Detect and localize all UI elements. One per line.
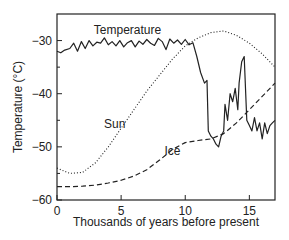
- x-tick-label: 0: [54, 204, 61, 218]
- y-tick-label: −30: [32, 34, 53, 48]
- y-tick-label: −60: [32, 193, 53, 207]
- x-axis-label: Thousands of years before present: [73, 215, 260, 229]
- y-axis-label: Temperature (°C): [11, 61, 25, 153]
- temperature-line: [57, 38, 275, 147]
- y-tick-label: −50: [32, 140, 53, 154]
- y-tick-label: −40: [32, 87, 53, 101]
- temperature-label: Temperature: [94, 23, 162, 37]
- sun-label: Sun: [104, 117, 125, 131]
- ice-label: Ice: [164, 144, 180, 158]
- plot-area: TemperatureSunIce: [57, 23, 275, 187]
- ice-line: [57, 83, 275, 187]
- chart: TemperatureSunIce −30−40−50−60051015 Tem…: [0, 0, 289, 240]
